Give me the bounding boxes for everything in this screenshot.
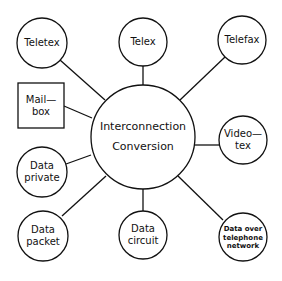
node-mailbox-line1: Mail—	[26, 94, 56, 107]
node-videotex-line2: tex	[235, 140, 251, 153]
connector-data-telephone	[178, 176, 223, 220]
node-mailbox-line2: box	[32, 106, 50, 119]
node-data-private-line2: private	[24, 172, 59, 185]
center-label: Interconnection Conversion	[91, 112, 195, 162]
node-teletex-label: Teletex	[17, 33, 67, 53]
node-mailbox-label: Mail— box	[18, 85, 64, 127]
node-data-telephone-line1: Data over	[224, 225, 263, 234]
center-label-line2: Conversion	[112, 140, 174, 154]
node-videotex-label: Video— tex	[219, 124, 267, 156]
node-telefax-label: Telefax	[218, 30, 266, 50]
node-telex-label: Telex	[119, 32, 167, 52]
node-data-telephone-line3: network	[227, 242, 259, 251]
node-data-packet-line2: packet	[26, 236, 59, 249]
node-data-private-label: Data private	[17, 156, 67, 188]
node-data-circuit-line2: circuit	[128, 235, 159, 248]
node-data-telephone-label: Data over telephone network	[219, 222, 267, 254]
connector-data-private	[66, 155, 91, 164]
connector-teletex	[60, 60, 105, 100]
node-data-circuit-line1: Data	[131, 223, 155, 236]
connector-data-packet	[62, 176, 106, 216]
node-telefax-text: Telefax	[224, 34, 259, 47]
node-telex-text: Telex	[130, 36, 155, 49]
center-label-line1: Interconnection	[100, 120, 186, 134]
node-data-packet-line1: Data	[31, 224, 55, 237]
node-data-telephone-line2: telephone	[223, 234, 263, 243]
connector-telefax	[180, 57, 225, 100]
node-videotex-line1: Video—	[224, 128, 262, 141]
node-teletex-text: Teletex	[24, 37, 59, 50]
node-data-circuit-label: Data circuit	[119, 219, 167, 251]
node-data-private-line1: Data	[30, 160, 54, 173]
node-data-packet-label: Data packet	[18, 220, 68, 252]
connector-mailbox	[64, 106, 92, 118]
